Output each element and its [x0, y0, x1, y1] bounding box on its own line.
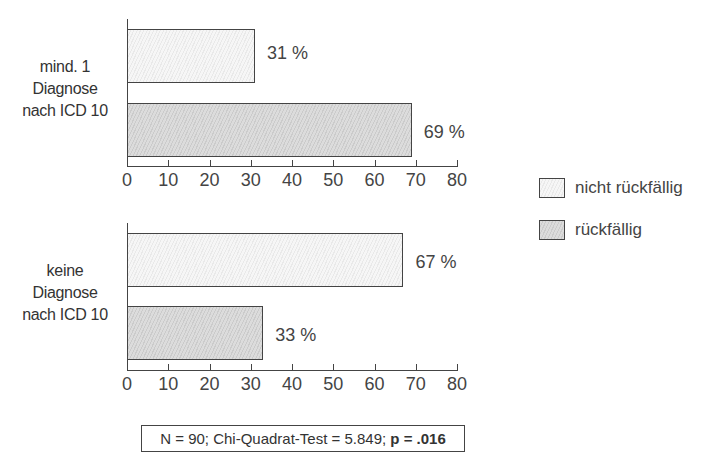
panel-1-value-rueckfaellig: 69 % — [424, 122, 465, 143]
panel-2-label-line-2: Diagnose — [10, 282, 120, 304]
x-axis-tick — [333, 364, 334, 370]
x-axis-tick — [210, 160, 211, 166]
panel-2-label-line-1: keine — [10, 260, 120, 282]
legend-swatch-light-icon — [539, 178, 565, 198]
statistics-footnote: N = 90; Chi-Quadrat-Test = 5.849; p = .0… — [141, 425, 465, 452]
x-axis-tick-label: 0 — [112, 374, 142, 395]
x-axis-tick-label: 10 — [153, 170, 183, 191]
x-axis-tick — [251, 160, 252, 166]
x-axis-tick-label: 0 — [112, 170, 142, 191]
x-axis-tick-label: 20 — [195, 374, 225, 395]
x-axis-tick — [416, 160, 417, 166]
panel-1-bar-nicht-rueckfaellig — [127, 29, 255, 83]
panel-2-label-line-3: nach ICD 10 — [10, 304, 120, 326]
p-value: p = .016 — [390, 430, 445, 447]
x-axis-tick — [127, 160, 128, 166]
x-axis-tick-label: 70 — [401, 374, 431, 395]
legend-label-nicht-rueckfaellig: nicht rückfällig — [575, 178, 683, 198]
x-axis-tick-label: 30 — [236, 374, 266, 395]
x-axis-tick-label: 50 — [318, 374, 348, 395]
x-axis-tick — [416, 364, 417, 370]
x-axis-tick-label: 30 — [236, 170, 266, 191]
panel-2-value-nicht-rueckfaellig: 67 % — [415, 252, 456, 273]
legend-item-rueckfaellig: rückfällig — [539, 220, 642, 240]
x-axis-tick-label: 80 — [442, 170, 472, 191]
x-axis-tick-label: 40 — [277, 170, 307, 191]
x-axis-tick-label: 40 — [277, 374, 307, 395]
x-axis-tick-label: 60 — [360, 374, 390, 395]
x-axis-tick-label: 80 — [442, 374, 472, 395]
x-axis-tick — [168, 364, 169, 370]
x-axis-tick — [375, 364, 376, 370]
legend-item-nicht-rueckfaellig: nicht rückfällig — [539, 178, 683, 198]
panel-1-value-nicht-rueckfaellig: 31 % — [267, 43, 308, 64]
x-axis-tick-label: 20 — [195, 170, 225, 191]
legend-swatch-gray-icon — [539, 220, 565, 240]
x-axis-tick-label: 10 — [153, 374, 183, 395]
x-axis-tick — [168, 160, 169, 166]
panel-1-bar-rueckfaellig — [127, 103, 412, 157]
x-axis-tick — [210, 364, 211, 370]
x-axis-tick-label: 70 — [401, 170, 431, 191]
x-axis-tick-label: 50 — [318, 170, 348, 191]
x-axis-tick — [292, 160, 293, 166]
x-axis-tick — [127, 364, 128, 370]
panel-1-label-line-3: nach ICD 10 — [10, 100, 120, 122]
panel-2-x-axis — [127, 370, 458, 371]
legend-label-rueckfaellig: rückfällig — [575, 220, 642, 240]
x-axis-tick — [292, 364, 293, 370]
x-axis-tick — [457, 364, 458, 370]
statistics-text: N = 90; Chi-Quadrat-Test = 5.849; — [160, 430, 390, 447]
panel-2-bar-nicht-rueckfaellig — [127, 233, 403, 287]
x-axis-tick-label: 60 — [360, 170, 390, 191]
panel-1-x-axis — [127, 166, 458, 167]
panel-2-bar-rueckfaellig — [127, 306, 263, 360]
x-axis-tick — [333, 160, 334, 166]
panel-1-label-line-1: mind. 1 — [10, 56, 120, 78]
x-axis-tick — [457, 160, 458, 166]
panel-2-value-rueckfaellig: 33 % — [275, 325, 316, 346]
panel-2-category-label: keine Diagnose nach ICD 10 — [10, 260, 120, 326]
panel-1-category-label: mind. 1 Diagnose nach ICD 10 — [10, 56, 120, 122]
x-axis-tick — [375, 160, 376, 166]
x-axis-tick — [251, 364, 252, 370]
panel-1-label-line-2: Diagnose — [10, 78, 120, 100]
